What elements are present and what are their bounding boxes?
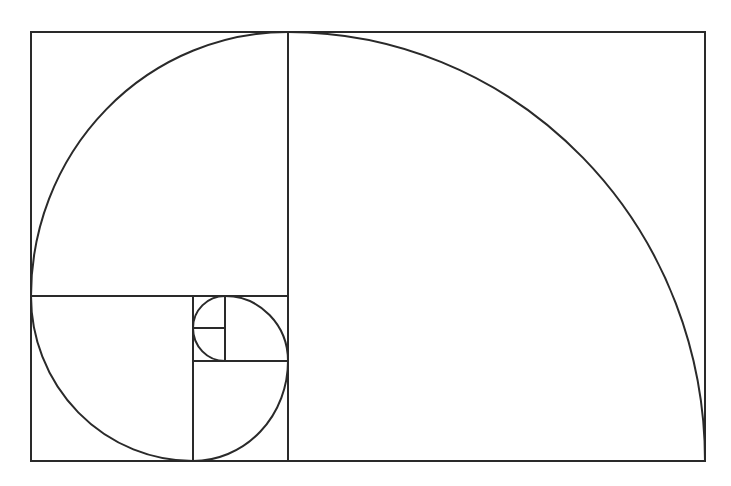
outer-rectangle <box>31 32 705 461</box>
golden-spiral-curve <box>31 32 705 461</box>
subdivision-lines <box>31 32 288 461</box>
golden-spiral-diagram <box>0 0 731 486</box>
